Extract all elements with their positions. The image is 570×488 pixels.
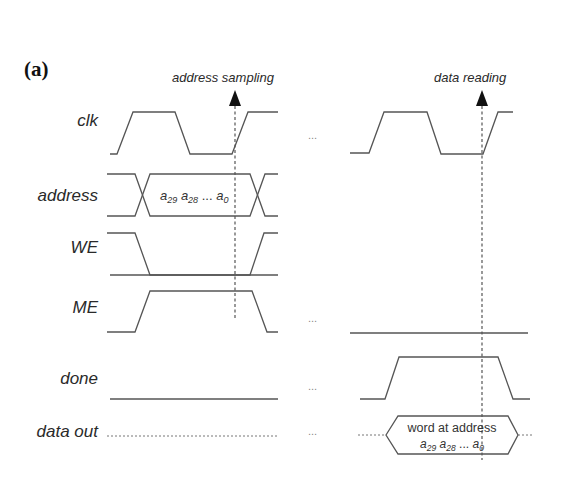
gap-ellipsis-me: ...	[308, 312, 317, 324]
signal-label-clk: clk	[77, 111, 99, 130]
data-out-address-value: a29 a28 ... a0	[420, 437, 484, 453]
done-waveform-right	[360, 357, 530, 399]
address-sampling-marker	[229, 90, 241, 318]
up-arrow-icon	[476, 90, 488, 106]
signal-label-me: ME	[73, 298, 99, 317]
gap-ellipsis-data-out: ...	[308, 425, 317, 437]
we-waveform	[107, 233, 278, 275]
me-waveform-left	[107, 291, 278, 332]
gap-ellipsis-done: ...	[308, 380, 317, 392]
signal-label-we: WE	[71, 238, 99, 257]
clk-waveform-right	[350, 112, 513, 154]
timing-diagram: (a) address sampling data reading clk ad…	[0, 0, 570, 488]
signal-label-address: address	[38, 186, 99, 205]
data-reading-label: data reading	[434, 70, 507, 85]
signal-label-data-out: data out	[37, 422, 100, 441]
address-value: a29 a28 ... a0	[160, 188, 228, 205]
up-arrow-icon	[229, 90, 241, 106]
clk-waveform-left	[110, 112, 278, 154]
panel-label: (a)	[24, 57, 49, 81]
gap-ellipsis-clk: ...	[308, 129, 317, 141]
data-out-word-label: word at address	[407, 421, 497, 435]
signal-label-done: done	[60, 369, 98, 388]
address-sampling-label: address sampling	[172, 70, 275, 85]
